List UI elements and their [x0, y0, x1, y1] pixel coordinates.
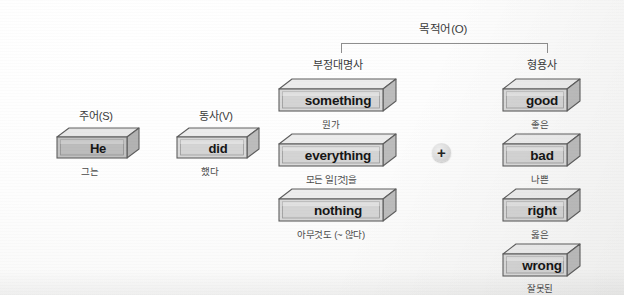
gloss-did: 했다	[156, 164, 264, 178]
gloss-wrong: 잘못된	[495, 281, 585, 295]
word-block-nothing[interactable]: nothing	[276, 188, 400, 224]
block-3d-shape	[500, 133, 584, 169]
block-3d-shape	[500, 188, 584, 224]
word-block-right[interactable]: right	[500, 188, 584, 224]
gloss-everything: 모든 일[것]을	[276, 172, 386, 186]
gloss-right: 옳은	[495, 227, 585, 241]
word-block-good[interactable]: good	[500, 78, 584, 114]
object-group-label: 목적어(O)	[385, 20, 501, 36]
object-group-bracket	[341, 43, 548, 53]
block-3d-shape	[500, 78, 584, 114]
block-3d-shape	[500, 243, 584, 279]
plus-symbol: +	[437, 145, 446, 160]
gloss-good: 좋은	[495, 117, 585, 131]
grammar-diagram-page: 목적어(O) 주어(S) He 그는 동사(V) did 했다	[0, 0, 624, 295]
block-3d-shape	[54, 127, 142, 161]
gloss-nothing: 아무것도 (~ 않다)	[266, 227, 396, 241]
word-block-wrong[interactable]: wrong	[500, 243, 584, 279]
block-3d-shape	[174, 127, 262, 161]
category-label-indefinite-pronoun: 부정대명사	[278, 56, 398, 72]
category-label-adjective: 형용사	[487, 56, 597, 72]
gloss-bad: 나쁜	[495, 172, 585, 186]
category-label-verb: 동사(V)	[156, 107, 276, 123]
gloss-something: 뭔가	[276, 117, 386, 131]
word-block-bad[interactable]: bad	[500, 133, 584, 169]
category-label-subject: 주어(S)	[36, 107, 156, 123]
word-block-he[interactable]: He	[54, 127, 142, 161]
word-block-did[interactable]: did	[174, 127, 262, 161]
word-block-everything[interactable]: everything	[276, 133, 400, 169]
gloss-he: 그는	[36, 164, 144, 178]
plus-operator-icon: +	[432, 143, 451, 162]
block-3d-shape	[276, 78, 400, 114]
block-3d-shape	[276, 133, 400, 169]
block-3d-shape	[276, 188, 400, 224]
word-block-something[interactable]: something	[276, 78, 400, 114]
